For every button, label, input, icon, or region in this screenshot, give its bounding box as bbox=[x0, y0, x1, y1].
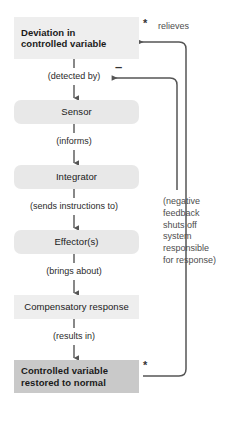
connector-label-sends-instructions: (sends instructions to) bbox=[0, 201, 148, 211]
node-restored-line1: Controlled variable bbox=[21, 365, 108, 377]
connector-label-results-in: (results in) bbox=[0, 331, 148, 341]
connector-label-informs: (informs) bbox=[0, 136, 148, 146]
feedback-note-line-2: feedback bbox=[163, 208, 235, 220]
asterisk-bottom: * bbox=[143, 360, 147, 370]
asterisk-top-text: * bbox=[143, 17, 147, 29]
asterisk-bottom-text: * bbox=[143, 359, 147, 371]
homeostasis-flowchart: Deviation in controlled variable Sensor … bbox=[0, 0, 240, 422]
node-sensor-label: Sensor bbox=[61, 106, 91, 118]
feedback-note-line-6: for response) bbox=[163, 255, 235, 267]
feedback-note-line-1: (negative bbox=[163, 196, 235, 208]
connector-label-brings-about: (brings about) bbox=[0, 266, 148, 276]
node-effector[interactable]: Effector(s) bbox=[14, 230, 139, 254]
feedback-minus-text: – bbox=[115, 59, 122, 74]
node-effector-label: Effector(s) bbox=[54, 236, 98, 248]
asterisk-top: * bbox=[143, 18, 147, 28]
feedback-note: (negative feedback shuts off system resp… bbox=[163, 196, 235, 267]
node-restored-line2: restored to normal bbox=[21, 377, 108, 389]
connector-label-results-in-text: (results in) bbox=[53, 331, 95, 341]
node-restored[interactable]: Controlled variable restored to normal bbox=[14, 360, 139, 393]
feedback-note-line-4: system bbox=[163, 231, 235, 243]
feedback-minus-sign: – bbox=[115, 62, 122, 72]
feedback-relieves-label: relieves bbox=[158, 21, 189, 31]
node-integrator-label: Integrator bbox=[56, 171, 97, 183]
feedback-note-line-5: responsible bbox=[163, 243, 235, 255]
connector-label-brings-about-text: (brings about) bbox=[46, 266, 102, 276]
node-compensatory-label: Compensatory response bbox=[24, 301, 129, 313]
node-deviation[interactable]: Deviation in controlled variable bbox=[14, 17, 139, 59]
connector-label-detected-by: (detected by) bbox=[0, 71, 148, 81]
node-deviation-line1: Deviation in bbox=[21, 27, 106, 39]
connector-label-sends-instructions-text: (sends instructions to) bbox=[30, 201, 118, 211]
feedback-relieves-text: relieves bbox=[158, 21, 189, 31]
connector-label-informs-text: (informs) bbox=[56, 136, 92, 146]
connector-label-detected-by-text: (detected by) bbox=[48, 71, 101, 81]
node-sensor[interactable]: Sensor bbox=[14, 100, 139, 124]
feedback-note-line-3: shuts off bbox=[163, 220, 235, 232]
node-deviation-line2: controlled variable bbox=[21, 38, 106, 50]
node-integrator[interactable]: Integrator bbox=[14, 165, 139, 189]
node-compensatory-response[interactable]: Compensatory response bbox=[14, 295, 139, 319]
